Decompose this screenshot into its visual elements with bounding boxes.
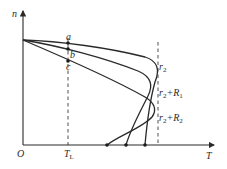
start-point-r2 xyxy=(143,143,147,147)
curve-r2-plus-R1-label: r2+R1 xyxy=(159,87,183,100)
curve-r2-plus-R2 xyxy=(23,40,155,145)
y-axis-label: n xyxy=(12,8,17,19)
start-point-r2-plus-R1 xyxy=(124,143,128,147)
origin-label: O xyxy=(17,148,24,159)
mechanical-characteristic-diagram: n T O TL a b c r2 r2+R1 r2+R2 xyxy=(0,0,227,169)
start-point-r2-plus-R2 xyxy=(105,143,109,147)
point-a-label: a xyxy=(66,31,71,42)
x-axis-label: T xyxy=(206,150,213,161)
curve-r2-plus-R2-label: r2+R2 xyxy=(159,112,183,125)
point-b-label: b xyxy=(70,49,75,60)
point-c-label: c xyxy=(66,61,71,72)
load-torque-label: TL xyxy=(64,148,74,161)
curve-r2-label: r2 xyxy=(159,61,167,74)
curve-r2-plus-R1 xyxy=(23,40,151,145)
